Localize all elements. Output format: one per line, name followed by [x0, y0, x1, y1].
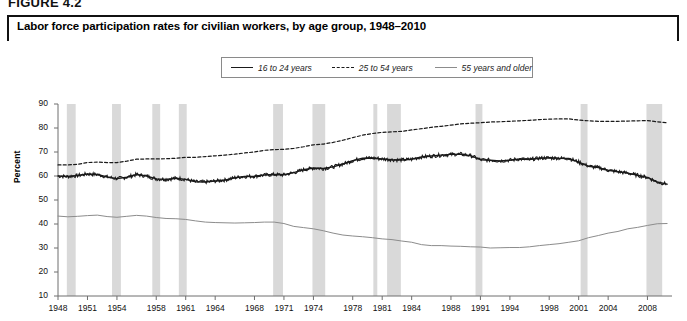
chart-plot-area [0, 0, 687, 321]
recession-band [112, 104, 121, 296]
recession-band [273, 104, 283, 296]
recession-band [387, 104, 401, 296]
recession-band [581, 104, 588, 296]
recession-band [179, 104, 187, 296]
recession-band [476, 104, 483, 296]
figure-container: FIGURE 4.2 Labor force participation rat… [0, 0, 687, 321]
recession-band [312, 104, 325, 296]
recession-band [152, 104, 160, 296]
recession-band [67, 104, 76, 296]
series-line-16-24-detail [58, 152, 666, 185]
series-line-55-plus [58, 215, 667, 248]
recession-band [646, 104, 662, 296]
